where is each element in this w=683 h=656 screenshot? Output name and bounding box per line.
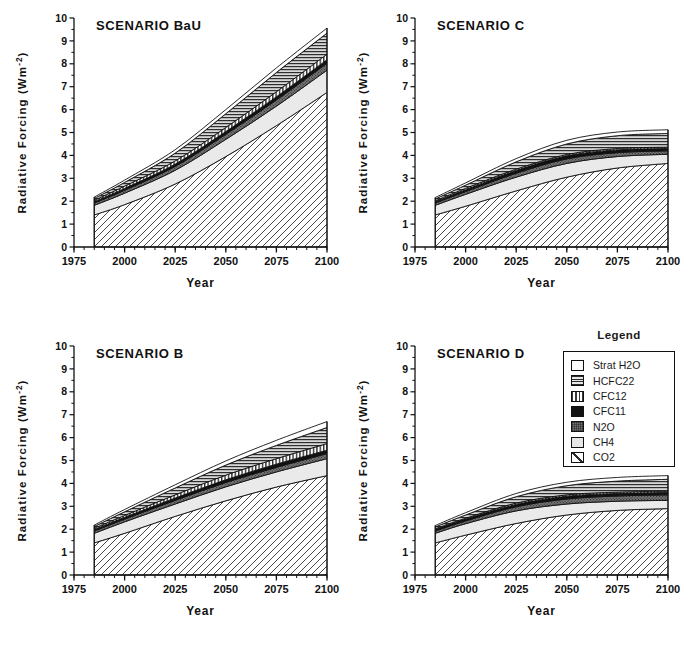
svg-text:7: 7 <box>402 80 408 92</box>
svg-text:2025: 2025 <box>504 583 528 595</box>
svg-text:10: 10 <box>55 12 67 24</box>
panel-title: SCENARIO BaU <box>96 18 201 33</box>
y-axis-ticks: 012345678910 <box>55 12 74 253</box>
svg-text:2050: 2050 <box>214 255 238 267</box>
svg-text:9: 9 <box>402 363 408 375</box>
svg-text:3: 3 <box>61 500 67 512</box>
legend-item-cfc11: CFC11 <box>571 404 668 419</box>
legend-swatch-light-gray-icon <box>571 437 584 448</box>
svg-text:6: 6 <box>402 103 408 115</box>
svg-text:3: 3 <box>402 500 408 512</box>
svg-text:7: 7 <box>402 408 408 420</box>
svg-text:2100: 2100 <box>656 583 680 595</box>
legend-item-strat-h2o: Strat H2O <box>571 358 668 373</box>
svg-text:2050: 2050 <box>555 583 579 595</box>
legend-item-cfc12: CFC12 <box>571 389 668 404</box>
legend-box: Strat H2OHCFC22CFC12CFC11N2OCH4CO2 <box>563 351 675 467</box>
svg-text:1: 1 <box>61 546 67 558</box>
svg-text:2: 2 <box>402 195 408 207</box>
legend-item-hcfc22: HCFC22 <box>571 373 668 388</box>
svg-text:2000: 2000 <box>112 583 136 595</box>
legend-item-co2: CO2 <box>571 450 668 465</box>
svg-text:10: 10 <box>396 340 408 352</box>
svg-text:10: 10 <box>396 12 408 24</box>
svg-text:5: 5 <box>61 454 67 466</box>
panel-title: SCENARIO C <box>437 18 525 33</box>
x-axis-ticks: 197520002025205020752100 <box>62 575 339 595</box>
legend-swatch-vertical-lines-icon <box>571 391 584 402</box>
svg-text:2100: 2100 <box>315 255 339 267</box>
svg-text:0: 0 <box>61 241 67 253</box>
svg-text:9: 9 <box>61 35 67 47</box>
svg-text:0: 0 <box>61 569 67 581</box>
svg-text:5: 5 <box>402 126 408 138</box>
x-axis-ticks: 197520002025205020752100 <box>62 247 339 267</box>
svg-text:Radiative Forcing (Wm-2): Radiative Forcing (Wm-2) <box>356 379 370 541</box>
legend-item-label: CFC12 <box>593 391 627 402</box>
svg-text:4: 4 <box>402 149 408 161</box>
svg-text:7: 7 <box>61 80 67 92</box>
panel-scenario-b: 012345678910197520002025205020752100SCEN… <box>0 328 341 656</box>
legend-swatch-dark-stipple-icon <box>571 421 584 432</box>
svg-text:2050: 2050 <box>555 255 579 267</box>
svg-text:4: 4 <box>61 149 67 161</box>
x-axis-ticks: 197520002025205020752100 <box>403 575 680 595</box>
chart-scenario-b: 012345678910197520002025205020752100SCEN… <box>0 328 341 656</box>
svg-text:2025: 2025 <box>163 255 187 267</box>
svg-text:2000: 2000 <box>453 255 477 267</box>
legend-item-label: N2O <box>593 422 615 433</box>
x-axis-label: Year <box>186 276 215 290</box>
svg-text:8: 8 <box>402 57 408 69</box>
legend-item-label: CH4 <box>593 437 614 448</box>
svg-text:3: 3 <box>402 172 408 184</box>
svg-text:2075: 2075 <box>605 583 629 595</box>
svg-text:3: 3 <box>61 172 67 184</box>
svg-text:8: 8 <box>402 385 408 397</box>
legend-swatch-solid-black-icon <box>571 406 584 417</box>
svg-text:8: 8 <box>61 385 67 397</box>
svg-text:2050: 2050 <box>214 583 238 595</box>
chart-scenario-c: 012345678910197520002025205020752100SCEN… <box>341 0 682 328</box>
legend-swatch-white-icon <box>571 360 584 371</box>
svg-text:6: 6 <box>61 103 67 115</box>
legend-item-label: HCFC22 <box>593 376 634 387</box>
svg-text:0: 0 <box>402 241 408 253</box>
panel-title: SCENARIO D <box>437 346 525 361</box>
svg-text:Radiative Forcing (Wm-2): Radiative Forcing (Wm-2) <box>15 51 29 213</box>
y-axis-ticks: 012345678910 <box>396 340 415 581</box>
svg-text:Radiative Forcing (Wm-2): Radiative Forcing (Wm-2) <box>356 51 370 213</box>
legend-title: Legend <box>563 329 675 341</box>
svg-text:1975: 1975 <box>403 583 427 595</box>
svg-text:2075: 2075 <box>264 255 288 267</box>
legend-swatch-diagonal-hatch-icon <box>571 452 584 463</box>
svg-text:4: 4 <box>61 477 67 489</box>
svg-text:7: 7 <box>61 408 67 420</box>
x-axis-label: Year <box>186 604 215 618</box>
svg-text:2: 2 <box>402 523 408 535</box>
y-axis-label: Radiative Forcing (Wm-2) <box>15 379 29 541</box>
svg-text:1: 1 <box>402 218 408 230</box>
svg-text:2100: 2100 <box>315 583 339 595</box>
svg-text:2075: 2075 <box>264 583 288 595</box>
svg-text:1: 1 <box>61 218 67 230</box>
legend-item-label: CFC11 <box>593 406 626 417</box>
svg-text:9: 9 <box>61 363 67 375</box>
y-axis-ticks: 012345678910 <box>396 12 415 253</box>
svg-text:2075: 2075 <box>605 255 629 267</box>
svg-text:2000: 2000 <box>453 583 477 595</box>
legend-item-ch4: CH4 <box>571 434 668 449</box>
panel-scenario-bau: 012345678910197520002025205020752100SCEN… <box>0 0 341 328</box>
x-axis-ticks: 197520002025205020752100 <box>403 247 680 267</box>
legend-swatch-horizontal-lines-icon <box>571 375 584 386</box>
svg-text:2100: 2100 <box>656 255 680 267</box>
svg-text:Radiative Forcing (Wm-2): Radiative Forcing (Wm-2) <box>15 379 29 541</box>
legend-item-label: Strat H2O <box>593 360 641 371</box>
legend-item-n2o: N2O <box>571 419 668 434</box>
svg-text:8: 8 <box>61 57 67 69</box>
svg-text:2: 2 <box>61 523 67 535</box>
svg-text:0: 0 <box>402 569 408 581</box>
svg-text:2025: 2025 <box>504 255 528 267</box>
x-axis-label: Year <box>527 276 556 290</box>
svg-text:2000: 2000 <box>112 255 136 267</box>
panel-title: SCENARIO B <box>96 346 184 361</box>
